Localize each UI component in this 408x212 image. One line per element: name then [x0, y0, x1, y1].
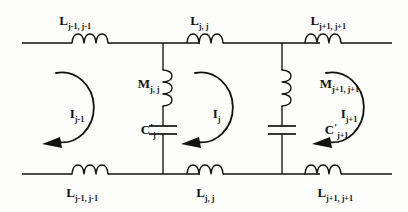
label-inductor-bottom-right: Lj+1, j+1 [295, 185, 370, 204]
mesh-loop-right-arrowhead [312, 137, 332, 148]
bottom-rail [22, 165, 392, 174]
inductor-bottom-left-coil [72, 165, 108, 174]
label-inductor-top-mid: Lj, j [167, 13, 224, 32]
shunt-branch-right [268, 43, 296, 174]
inductor-shunt-right-coil [282, 70, 291, 106]
label-mesh-current-left: Ij-1 [47, 106, 101, 125]
inductor-bottom-mid-coil [187, 165, 223, 174]
shunt-branch-left [149, 43, 177, 174]
inductor-bottom-right-coil [305, 165, 341, 174]
label-capacitor-right: C'j+1 [302, 122, 365, 141]
label-capacitor-left: C'j [118, 122, 172, 141]
label-inductor-top-right: Lj+1, j+1 [288, 13, 363, 32]
top-rail [22, 34, 392, 43]
label-inductor-bottom-mid: Lj, j [173, 185, 230, 204]
schematic-canvas: Lj-1, j-1 Lj, j Lj+1, j+1 Lj-1, j-1 Lj, … [0, 0, 408, 212]
mesh-loop-left-arrowhead [42, 137, 62, 148]
inductor-top-left-coil [72, 34, 108, 43]
label-mesh-current-mid: Ij [190, 106, 237, 125]
inductor-top-mid-coil [187, 34, 223, 43]
inductor-top-right-coil [305, 34, 341, 43]
mesh-loop-mid-arrowhead [181, 137, 201, 148]
label-inductor-bottom-left: Lj-1, j-1 [44, 185, 115, 204]
label-mutual-inductor-left: Mj, j [115, 76, 176, 95]
circuit-diagram: Lj-1, j-1 Lj, j Lj+1, j+1 Lj-1, j-1 Lj, … [0, 0, 408, 212]
label-inductor-top-left: Lj-1, j-1 [37, 13, 108, 32]
label-mutual-inductor-right: Mj+1, j+1 [297, 76, 375, 95]
